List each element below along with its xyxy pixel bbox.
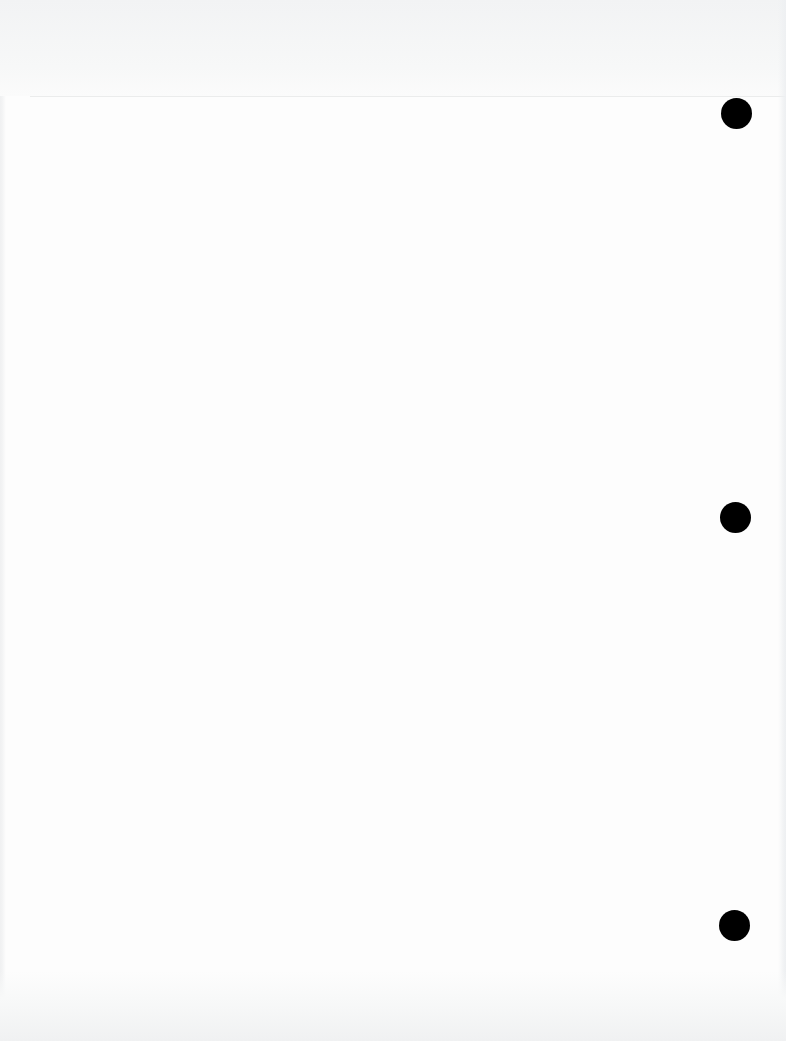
page-left-edge-shading <box>0 0 6 1041</box>
page-top-shading <box>0 0 786 96</box>
page-top-fold-line <box>30 96 786 97</box>
punch-hole-bottom <box>719 910 750 941</box>
punch-hole-middle <box>720 502 751 533</box>
scanned-page <box>0 0 786 1041</box>
punch-hole-top <box>721 98 752 129</box>
page-bottom-shading <box>0 971 786 1041</box>
page-right-edge-shading <box>778 0 786 1041</box>
